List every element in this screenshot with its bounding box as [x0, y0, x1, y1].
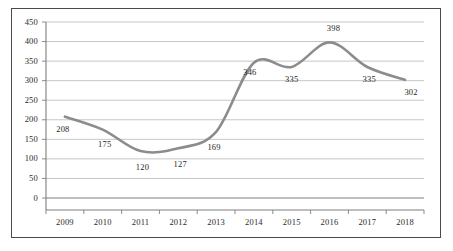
x-axis-tick-label: 2010	[83, 217, 123, 227]
y-axis-tick-label: 0	[10, 193, 38, 203]
data-series-line	[65, 42, 405, 152]
data-point-label: 175	[88, 139, 122, 149]
x-axis-ticks	[46, 210, 424, 214]
y-axis-tick-label: 300	[10, 75, 38, 85]
x-axis-tick-label: 2012	[158, 217, 198, 227]
y-axis-tick-label: 450	[10, 17, 38, 27]
data-point-label: 127	[163, 159, 197, 169]
data-point-label: 335	[275, 74, 309, 84]
data-point-label: 208	[46, 124, 80, 134]
y-axis-tick-label: 100	[10, 153, 38, 163]
x-axis-tick-label: 2017	[347, 217, 387, 227]
x-axis-tick-label: 2018	[385, 217, 425, 227]
y-axis-tick-label: 250	[10, 95, 38, 105]
y-axis-tick-label: 350	[10, 56, 38, 66]
x-axis-tick-label: 2013	[196, 217, 236, 227]
data-point-label: 302	[394, 87, 428, 97]
x-axis-tick-label: 2015	[272, 217, 312, 227]
x-axis-tick-label: 2009	[45, 217, 85, 227]
data-point-label: 120	[126, 162, 160, 172]
data-point-label: 335	[352, 74, 386, 84]
data-point-label: 169	[197, 142, 231, 152]
data-point-label: 398	[317, 23, 351, 33]
y-axis-tick-label: 400	[10, 36, 38, 46]
y-axis-tick-label: 150	[10, 134, 38, 144]
data-point-label: 346	[233, 67, 267, 77]
x-axis-tick-label: 2016	[310, 217, 350, 227]
y-axis-tick-label: 50	[10, 173, 38, 183]
x-axis-tick-label: 2011	[121, 217, 161, 227]
x-axis-tick-label: 2014	[234, 217, 274, 227]
y-axis-ticks	[42, 22, 46, 198]
gridlines	[46, 22, 424, 198]
y-axis-tick-label: 200	[10, 114, 38, 124]
